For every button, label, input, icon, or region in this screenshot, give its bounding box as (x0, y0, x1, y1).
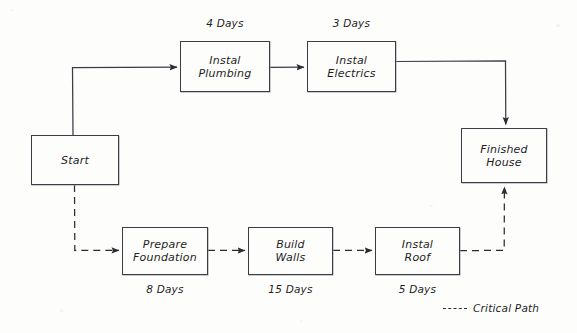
node-finished-house-label: Finished House (480, 143, 527, 169)
node-start[interactable]: Start (31, 135, 119, 185)
node-prepare-foundation[interactable]: Prepare Foundation (122, 227, 208, 275)
paper-speck (430, 205, 433, 207)
paper-speck (300, 320, 303, 322)
node-build-walls[interactable]: Build Walls (248, 227, 333, 275)
edge-start-to-plumbing (73, 67, 178, 135)
node-instal-electrics[interactable]: Instal Electrics (307, 41, 396, 92)
edge-electrics-to-finished (396, 61, 506, 125)
paper-speck (556, 24, 560, 27)
paper-speck (11, 9, 14, 11)
legend-dashed-line-icon (443, 308, 467, 309)
edge-start-to-foundation (75, 185, 120, 251)
node-instal-electrics-label: Instal Electrics (327, 54, 375, 80)
node-instal-roof-label: Instal Roof (402, 238, 433, 264)
node-build-walls-label: Build Walls (276, 238, 306, 264)
duration-prepare-foundation: 8 Days (122, 283, 208, 295)
node-instal-roof[interactable]: Instal Roof (375, 227, 460, 275)
legend-critical-path: Critical Path (443, 302, 539, 314)
node-prepare-foundation-label: Prepare Foundation (133, 238, 197, 264)
duration-instal-electrics: 3 Days (307, 17, 396, 29)
edge-roof-to-finished (460, 187, 504, 251)
node-start-label: Start (61, 154, 89, 167)
paper-speck (60, 309, 63, 312)
legend-critical-path-label: Critical Path (473, 302, 539, 314)
duration-build-walls: 15 Days (248, 283, 333, 295)
duration-instal-roof: 5 Days (375, 283, 460, 295)
duration-instal-plumbing: 4 Days (180, 17, 270, 29)
node-finished-house[interactable]: Finished House (461, 128, 547, 183)
node-instal-plumbing-label: Instal Plumbing (199, 54, 252, 80)
node-instal-plumbing[interactable]: Instal Plumbing (180, 41, 270, 92)
network-diagram-canvas: Start Instal Plumbing 4 Days Instal Elec… (0, 0, 577, 333)
